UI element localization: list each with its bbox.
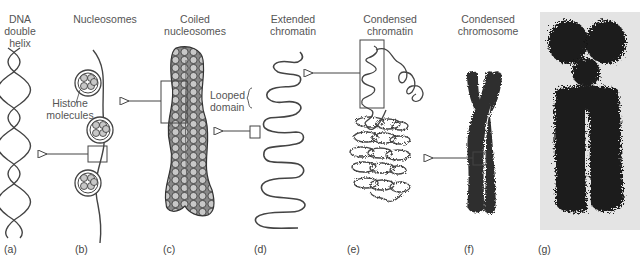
panel-label-f: (f): [464, 243, 474, 255]
dna-double-helix-icon: [0, 48, 31, 238]
panel-label-c: (c): [163, 243, 175, 255]
extended-chromatin-icon: [255, 52, 305, 228]
nucleosomes-icon: [75, 50, 113, 243]
zoom-box-d: [250, 126, 260, 138]
panel-label-e: (e): [347, 243, 360, 255]
panel-label-d: (d): [254, 243, 267, 255]
condensed-loops: [350, 117, 410, 201]
chromatin-diagram: [0, 0, 643, 266]
panel-label-g: (g): [538, 243, 551, 255]
coiled-nucleosomes-icon: [161, 47, 214, 216]
condensed-chromosome-icon: [467, 71, 502, 214]
panel-label-a: (a): [4, 243, 17, 255]
nucleosome-top: [75, 70, 101, 96]
panel-label-b: (b): [75, 243, 88, 255]
looped-domain-brace-icon: [247, 88, 252, 108]
nucleosome-middle: [87, 117, 113, 143]
condensed-chromatin-icon: [350, 40, 423, 201]
nucleosome-bottom: [75, 170, 101, 196]
